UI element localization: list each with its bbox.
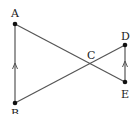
point-a	[13, 22, 18, 27]
point-d	[123, 43, 128, 48]
label-c: C	[87, 49, 95, 62]
label-a: A	[10, 7, 20, 20]
label-b: B	[11, 107, 19, 114]
point-e	[123, 80, 128, 85]
segment-bd	[15, 45, 125, 103]
segment-ae	[15, 24, 125, 82]
point-b	[13, 101, 18, 106]
geometry-diagram: A B C D E	[0, 0, 132, 114]
label-d: D	[121, 30, 130, 43]
label-e: E	[121, 88, 129, 101]
